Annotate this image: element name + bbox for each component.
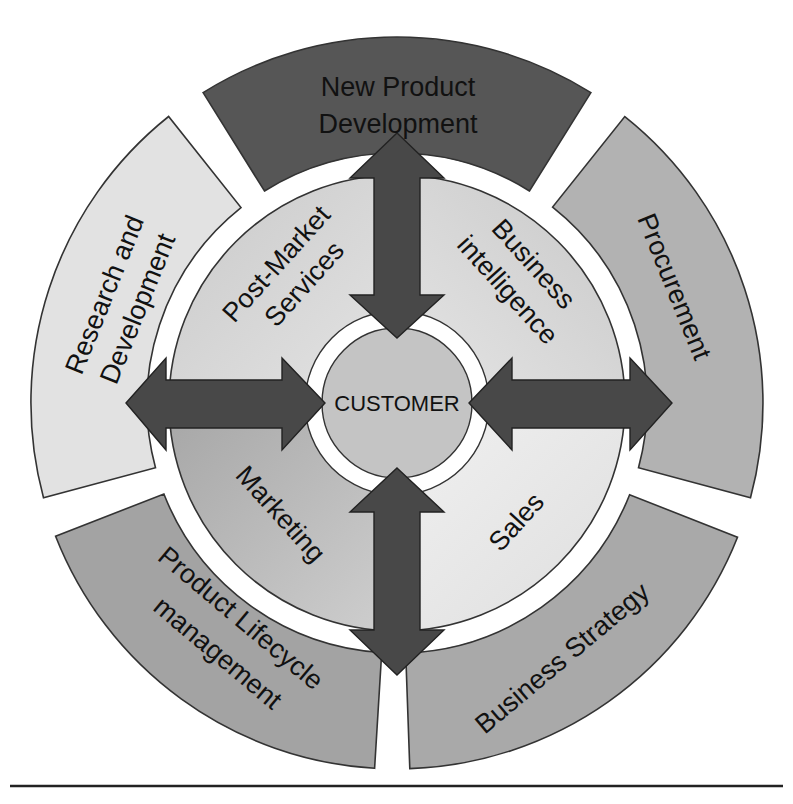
- label-new-product-development-line2: Development: [318, 109, 478, 139]
- label-new-product-development-line1: New Product: [321, 72, 476, 102]
- customer-label: CUSTOMER: [334, 391, 460, 416]
- customer-centric-diagram: CUSTOMER New Product Development Procure…: [0, 0, 793, 804]
